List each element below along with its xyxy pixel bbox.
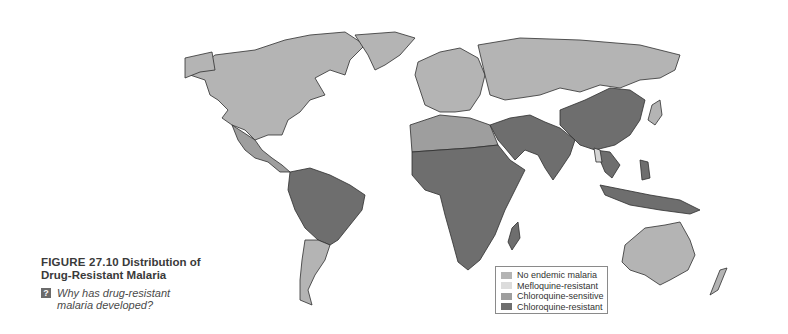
figure-number: FIGURE 27.10 xyxy=(41,256,119,268)
legend-label: Chloroquine-resistant xyxy=(517,302,603,312)
figure-question: ? Why has drug-resistant malaria develop… xyxy=(41,287,241,311)
region-japan xyxy=(648,100,662,125)
region-north-america xyxy=(190,32,365,140)
region-madagascar xyxy=(508,222,520,250)
legend-item-chloroquine-sensitive: Chloroquine-sensitive xyxy=(501,291,607,302)
figure-title-part2: Drug-Resistant Malaria xyxy=(41,269,166,281)
region-australia xyxy=(622,222,695,285)
region-philippines xyxy=(640,160,650,180)
region-south-america-north xyxy=(288,168,365,245)
legend-label: Chloroquine-sensitive xyxy=(517,291,604,301)
map-legend: No endemic malaria Mefloquine-resistant … xyxy=(495,266,608,314)
region-indonesia xyxy=(600,185,700,214)
region-new-zealand xyxy=(710,268,727,295)
region-europe xyxy=(415,48,485,112)
region-greenland xyxy=(355,32,415,70)
region-south-america-south xyxy=(300,240,330,305)
figure-title: FIGURE 27.10 Distribution of Drug-Resist… xyxy=(41,256,241,282)
legend-label: No endemic malaria xyxy=(517,270,597,280)
legend-swatch-icon xyxy=(501,303,512,310)
question-icon: ? xyxy=(41,288,51,298)
legend-label: Mefloquine-resistant xyxy=(517,281,598,291)
figure-title-part1: Distribution of xyxy=(122,256,201,268)
legend-item-chloroquine-resistant: Chloroquine-resistant xyxy=(501,302,607,313)
legend-item-no-endemic: No endemic malaria xyxy=(501,270,607,281)
legend-swatch-icon xyxy=(501,282,512,289)
legend-swatch-icon xyxy=(501,293,512,300)
region-russia xyxy=(478,38,680,100)
region-africa xyxy=(412,145,525,270)
figure-caption: FIGURE 27.10 Distribution of Drug-Resist… xyxy=(41,256,241,311)
legend-item-mefloquine: Mefloquine-resistant xyxy=(501,281,607,292)
question-text: Why has drug-resistant malaria developed… xyxy=(57,287,207,311)
legend-swatch-icon xyxy=(501,272,512,279)
region-mefloquine xyxy=(594,148,602,162)
